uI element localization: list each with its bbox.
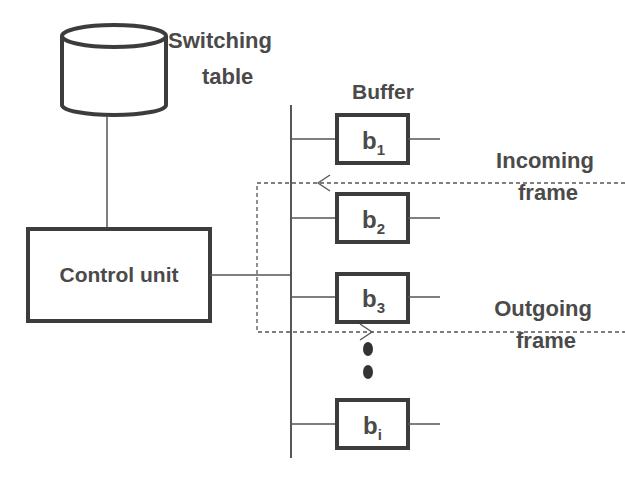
buffer-b2-sub: 2 — [377, 220, 385, 237]
buffer-b2-base: b — [362, 206, 377, 233]
buffer-b3-base: b — [362, 285, 377, 312]
incoming-label-1: Incoming — [496, 148, 594, 173]
buffer-b3: b3 — [291, 274, 440, 322]
ellipsis-icon — [363, 342, 373, 379]
outgoing-label-2: frame — [516, 328, 576, 353]
buffer-bi: bi — [291, 400, 440, 448]
buffer-bi-sub: i — [378, 426, 382, 443]
buffer-b3-sub: 3 — [377, 299, 385, 316]
buffer-title: Buffer — [352, 80, 414, 103]
incoming-label-2: frame — [518, 180, 578, 205]
buffer-b1-sub: 1 — [377, 141, 385, 158]
buffer-b1-base: b — [362, 127, 377, 154]
switching-table-label-1: Switching — [168, 28, 272, 53]
buffer-bi-base: b — [363, 412, 378, 439]
buffer-b1: b1 — [291, 115, 440, 163]
switch-diagram: Switching table Control unit Buffer b1 b… — [0, 0, 625, 479]
outgoing-label-1: Outgoing — [494, 296, 592, 321]
switching-table-label-2: table — [202, 64, 253, 89]
buffer-b2: b2 — [291, 194, 440, 242]
control-unit-label: Control unit — [60, 263, 179, 286]
database-cylinder-icon — [62, 25, 166, 115]
